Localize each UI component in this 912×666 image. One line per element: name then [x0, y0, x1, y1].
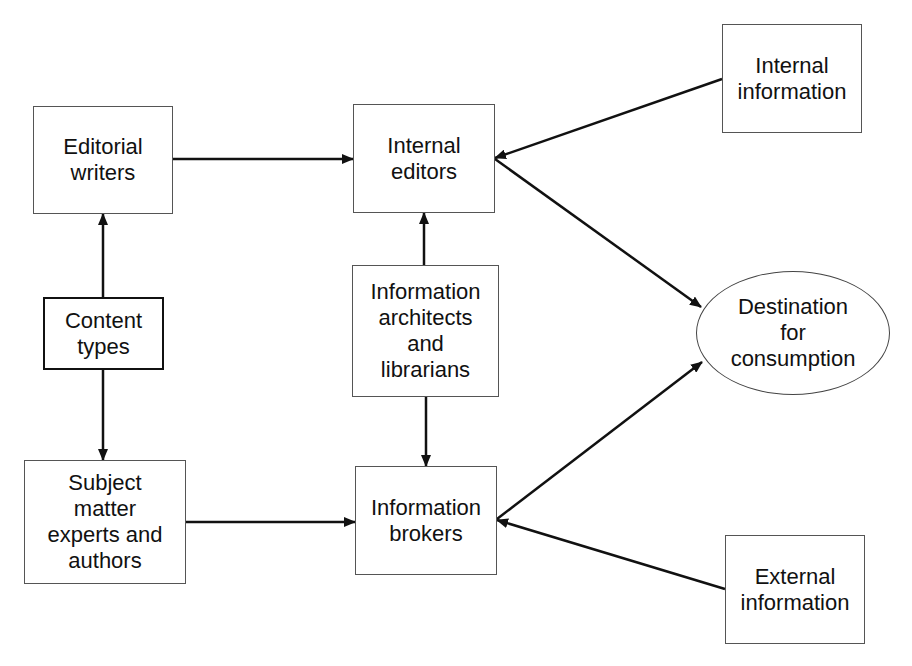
node-information-architects: Information architects and librarians — [352, 265, 499, 397]
node-label: Editorial writers — [63, 134, 142, 186]
node-internal-editors: Internal editors — [353, 104, 495, 213]
node-label: Information architects and librarians — [370, 279, 480, 383]
arrow-internal-information-to-internal-editors — [495, 79, 722, 158]
node-information-brokers: Information brokers — [355, 466, 497, 575]
arrow-external-information-to-information-brokers — [497, 520, 725, 589]
node-external-information: External information — [725, 535, 865, 644]
node-label: External information — [741, 564, 850, 616]
node-destination: Destination for consumption — [696, 271, 890, 395]
node-label: Subject matter experts and authors — [48, 470, 163, 574]
arrow-internal-editors-to-destination — [495, 159, 701, 307]
node-subject-matter-experts: Subject matter experts and authors — [24, 460, 186, 584]
node-editorial-writers: Editorial writers — [33, 106, 173, 214]
node-label: Destination for consumption — [731, 294, 856, 372]
node-content-types: Content types — [43, 297, 164, 370]
arrow-information-brokers-to-destination — [497, 362, 702, 519]
node-label: Content types — [65, 308, 142, 360]
node-internal-information: Internal information — [722, 24, 862, 133]
content-flow-diagram: Editorial writers Content types Subject … — [0, 0, 912, 666]
node-label: Information brokers — [371, 495, 481, 547]
node-label: Internal editors — [387, 133, 460, 185]
node-label: Internal information — [738, 53, 847, 105]
